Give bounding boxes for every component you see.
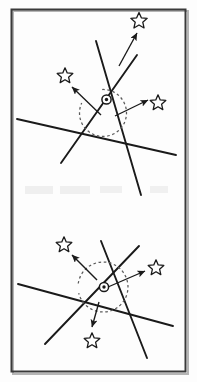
diagram-svg (0, 0, 197, 382)
figure-canvas (0, 0, 197, 382)
scan-ghost-1 (25, 186, 53, 194)
scan-ghost-2 (60, 186, 90, 194)
center-point-bottom (99, 282, 108, 291)
scan-ghost-4 (150, 186, 168, 193)
center-dot-bottom (102, 285, 105, 288)
center-dot-top (105, 98, 108, 101)
center-point-top (102, 95, 111, 104)
scan-ghost-3 (100, 186, 122, 193)
